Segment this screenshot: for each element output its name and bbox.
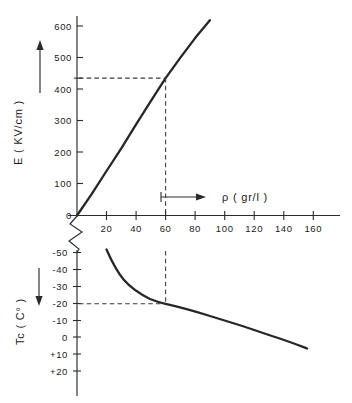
critical-temperature-curve xyxy=(107,250,308,349)
rho-axis: 20 40 60 80 100 120 140 160 ρ ( gr/l ) xyxy=(68,191,340,234)
tc-tick-label-plus10: +10 xyxy=(50,349,68,360)
axis-break xyxy=(69,216,82,252)
tc-axis-direction-arrow xyxy=(35,268,42,306)
rho-tick-label-60: 60 xyxy=(160,223,172,234)
e-tick-label-600: 600 xyxy=(54,21,72,32)
rho-tick-label-20: 20 xyxy=(101,223,113,234)
tc-tick-label-minus40: -40 xyxy=(52,264,68,275)
e-tick-label-500: 500 xyxy=(54,52,72,63)
rho-tick-label-80: 80 xyxy=(189,223,201,234)
e-tick-label-200: 200 xyxy=(54,147,72,158)
lower-panel: -50 -40 -30 -20 -10 0 +10 +20 Tc ( C° ) xyxy=(14,247,307,396)
e-axis-ticks xyxy=(77,26,83,184)
rho-tick-label-40: 40 xyxy=(130,223,142,234)
rho-tick-label-160: 160 xyxy=(304,223,322,234)
tc-tick-label-plus20: +20 xyxy=(50,366,68,377)
tc-tick-label-minus50: -50 xyxy=(52,247,68,258)
tc-tick-label-minus20: -20 xyxy=(52,298,68,309)
e-axis-title: E ( KV/cm ) xyxy=(12,100,24,165)
e-tick-label-100: 100 xyxy=(54,178,72,189)
e-axis-direction-arrow xyxy=(36,40,43,93)
rho-tick-label-120: 120 xyxy=(245,223,263,234)
rho-axis-title: ρ ( gr/l ) xyxy=(222,191,268,203)
x-axis-direction-arrow xyxy=(161,192,206,202)
tc-axis-title: Tc ( C° ) xyxy=(14,298,26,345)
rho-tick-label-140: 140 xyxy=(275,223,293,234)
chart-svg: 600 500 400 300 200 100 0 E ( KV/cm ) xyxy=(0,0,352,403)
tc-tick-label-minus30: -30 xyxy=(52,281,68,292)
e-tick-label-400: 400 xyxy=(54,84,72,95)
tc-tick-label-minus10: -10 xyxy=(52,315,68,326)
tc-tick-label-0: 0 xyxy=(62,332,68,343)
upper-panel: 600 500 400 300 200 100 0 E ( KV/cm ) xyxy=(12,16,210,221)
e-tick-label-300: 300 xyxy=(54,115,72,126)
breakdown-field-curve xyxy=(77,20,210,215)
rho-tick-label-100: 100 xyxy=(216,223,234,234)
chart-figure: 600 500 400 300 200 100 0 E ( KV/cm ) xyxy=(0,0,352,403)
